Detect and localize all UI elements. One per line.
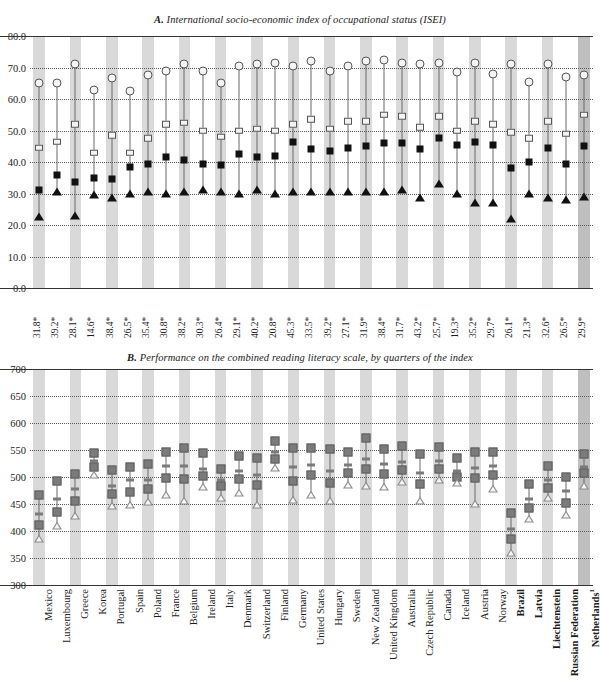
y-axis-tick-label: 40.0 — [8, 157, 26, 168]
panel-b-y-axis: 300350400450500550600650700 — [0, 340, 30, 590]
panel-b-bottom-rule — [0, 585, 593, 586]
data-marker-filled-square — [235, 151, 242, 158]
panel-a-title-text: International socio-economic index of oc… — [167, 14, 446, 25]
data-marker-filled-triangle — [179, 188, 189, 196]
data-marker-filled-square — [126, 163, 133, 170]
data-marker-filled-square — [290, 138, 297, 145]
y-axis-tick-label: 600 — [10, 418, 26, 429]
data-column — [266, 36, 284, 288]
data-marker-grey-square — [452, 454, 461, 463]
data-column — [357, 369, 375, 585]
data-marker-open-square — [271, 127, 279, 134]
data-marker-grey-square — [253, 480, 262, 489]
index-value-label: 38.2* — [177, 317, 187, 338]
index-value-label: 29.9* — [577, 317, 587, 338]
data-marker-open-square — [217, 134, 225, 141]
data-marker-filled-triangle — [579, 192, 589, 200]
country-label: Austria — [479, 589, 490, 620]
country-label: Mexico — [43, 589, 54, 621]
data-marker-dash — [471, 466, 479, 469]
data-marker-dash — [344, 464, 352, 467]
data-column — [411, 369, 429, 585]
data-marker-open-circle — [71, 59, 80, 68]
data-marker-open-circle — [53, 78, 62, 87]
data-marker-open-square — [489, 121, 497, 128]
data-marker-open-triangle — [125, 500, 135, 508]
data-marker-grey-square — [489, 470, 498, 479]
connector-line — [293, 66, 294, 192]
data-marker-filled-triangle — [506, 214, 516, 222]
connector-line — [347, 66, 348, 192]
data-marker-open-triangle — [89, 471, 99, 479]
data-marker-dash — [71, 488, 79, 491]
connector-line — [148, 75, 149, 192]
data-marker-dash — [235, 470, 243, 473]
data-column — [339, 369, 357, 585]
data-marker-grey-square — [289, 476, 298, 485]
data-column — [248, 36, 266, 288]
panel-a-plot — [30, 36, 593, 288]
data-column — [230, 369, 248, 585]
country-label: United Kingdom — [388, 589, 399, 660]
connector-line — [565, 477, 566, 515]
data-marker-open-square — [525, 135, 533, 142]
data-marker-filled-triangle — [125, 189, 135, 197]
data-marker-filled-square — [417, 146, 424, 153]
data-column — [321, 36, 339, 288]
y-axis-tick-label: 20.0 — [8, 220, 26, 231]
data-column — [157, 369, 175, 585]
data-column — [466, 36, 484, 288]
data-column — [466, 369, 484, 585]
data-marker-open-circle — [35, 79, 44, 88]
data-marker-dash — [162, 465, 170, 468]
data-column — [375, 369, 393, 585]
data-marker-open-square — [326, 126, 334, 133]
index-value-label: 14.6* — [86, 317, 96, 338]
country-label: Czech Republic — [424, 589, 435, 656]
data-marker-filled-square — [344, 144, 351, 151]
data-marker-dash — [326, 469, 334, 472]
data-column — [502, 369, 520, 585]
data-marker-dash — [489, 464, 497, 467]
data-column — [157, 36, 175, 288]
data-marker-open-square — [108, 132, 116, 139]
index-value-label: 26.5* — [559, 317, 569, 338]
data-marker-filled-square — [254, 154, 261, 161]
figure-root: A. International socio-economic index of… — [0, 0, 600, 694]
country-label: Canada — [442, 589, 453, 621]
data-marker-open-circle — [144, 71, 153, 80]
data-marker-open-triangle — [288, 496, 298, 504]
data-marker-filled-square — [490, 141, 497, 148]
data-marker-open-square — [562, 130, 570, 137]
y-axis-tick-label: 450 — [10, 499, 26, 510]
data-column — [230, 36, 248, 288]
data-marker-open-circle — [343, 61, 352, 70]
data-column — [575, 369, 593, 585]
data-column — [430, 36, 448, 288]
data-column — [248, 369, 266, 585]
index-value-label: 26.1* — [504, 317, 514, 338]
data-marker-grey-square — [35, 491, 44, 500]
data-marker-filled-square — [90, 174, 97, 181]
data-marker-grey-square — [307, 471, 316, 480]
country-label: United States — [315, 589, 326, 645]
data-marker-open-square — [362, 118, 370, 125]
connector-line — [57, 481, 58, 526]
y-axis-tick-label: 400 — [10, 526, 26, 537]
connector-line — [365, 438, 366, 487]
data-marker-open-triangle — [343, 480, 353, 488]
data-column — [84, 369, 102, 585]
data-marker-open-triangle — [52, 521, 62, 529]
data-column — [557, 369, 575, 585]
panel-a-title: A. International socio-economic index of… — [0, 14, 600, 25]
data-marker-filled-triangle — [161, 189, 171, 197]
data-marker-open-triangle — [306, 491, 316, 499]
index-value-label: 20.8* — [268, 317, 278, 338]
data-column — [520, 369, 538, 585]
index-value-label: 26.4* — [214, 317, 224, 338]
data-column — [321, 369, 339, 585]
data-marker-open-circle — [307, 57, 316, 66]
data-column — [48, 369, 66, 585]
data-marker-filled-triangle — [34, 213, 44, 221]
y-axis-tick-label: 50.0 — [8, 125, 26, 136]
